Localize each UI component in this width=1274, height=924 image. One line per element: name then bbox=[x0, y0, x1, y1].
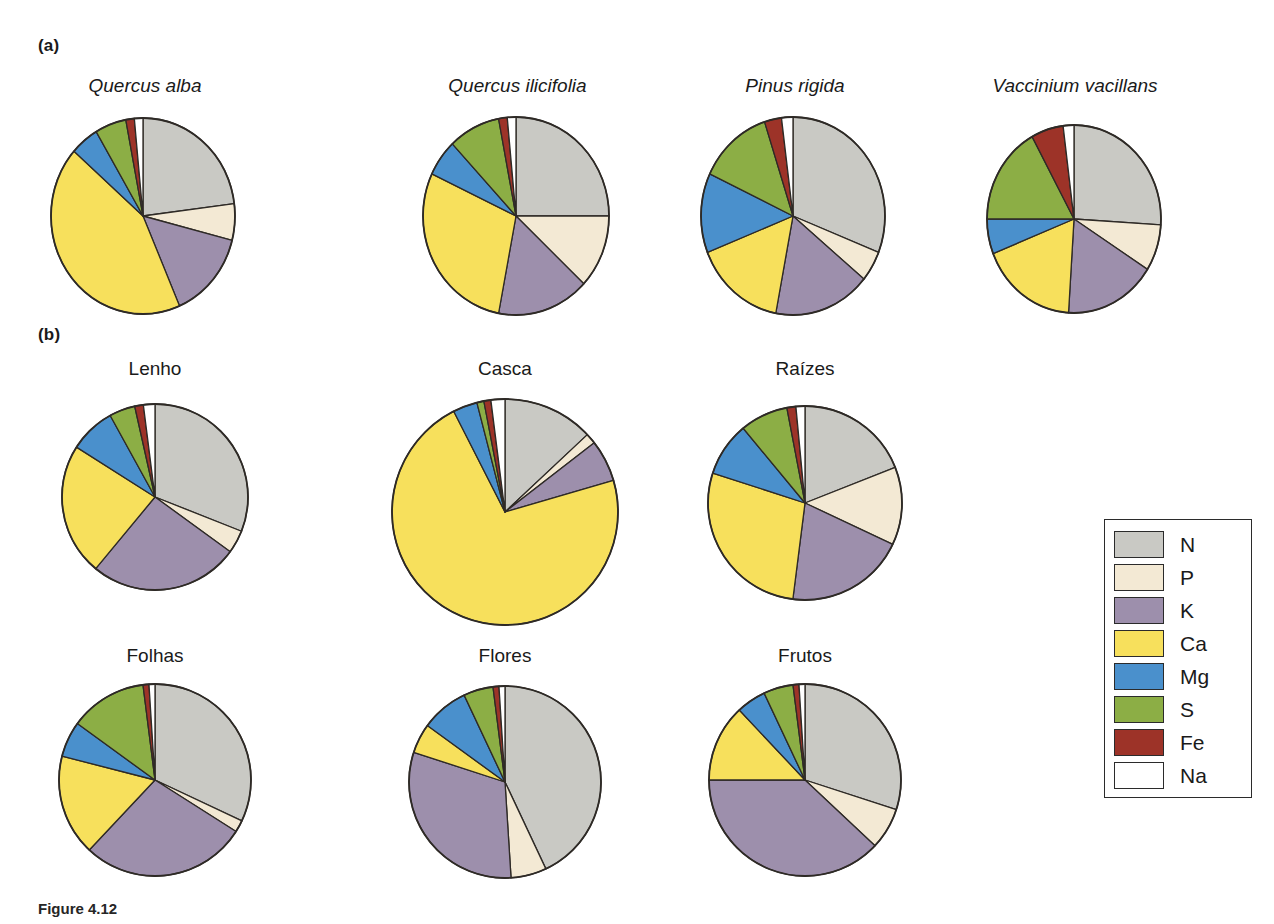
legend-item-n: N bbox=[1114, 528, 1195, 560]
pie-svg-casca bbox=[388, 395, 622, 629]
legend-label-fe: Fe bbox=[1180, 732, 1205, 753]
legend-label-mg: Mg bbox=[1180, 666, 1209, 687]
pie-title-vaccinium-vacillans: Vaccinium vacillans bbox=[975, 75, 1175, 97]
pie-title-folhas: Folhas bbox=[60, 645, 250, 667]
legend-swatch-p bbox=[1114, 564, 1164, 591]
pie-svg-quercus-alba bbox=[47, 114, 239, 318]
legend-swatch-k bbox=[1114, 597, 1164, 624]
legend-swatch-s bbox=[1114, 696, 1164, 723]
panel-label-b: (b) bbox=[38, 325, 60, 345]
legend-label-p: P bbox=[1180, 567, 1194, 588]
pie-title-lenho: Lenho bbox=[60, 358, 250, 380]
pie-svg-frutos bbox=[705, 680, 905, 880]
legend-label-k: K bbox=[1180, 600, 1194, 621]
legend-item-fe: Fe bbox=[1114, 726, 1205, 758]
pie-svg-ra-zes bbox=[704, 402, 906, 604]
legend: NPKCaMgSFeNa bbox=[1104, 519, 1252, 798]
legend-swatch-mg bbox=[1114, 663, 1164, 690]
legend-label-na: Na bbox=[1180, 765, 1207, 786]
pie-slice-vaccinium-vacillans-n bbox=[1074, 125, 1161, 225]
pie-title-flores: Flores bbox=[410, 645, 600, 667]
pie-slice-quercus-ilicifolia-n bbox=[516, 117, 609, 216]
legend-swatch-n bbox=[1114, 531, 1164, 558]
pie-svg-vaccinium-vacillans bbox=[983, 121, 1165, 317]
legend-label-s: S bbox=[1180, 699, 1194, 720]
pie-svg-flores bbox=[405, 682, 605, 882]
legend-item-ca: Ca bbox=[1114, 627, 1207, 659]
legend-label-n: N bbox=[1180, 534, 1195, 555]
pie-svg-lenho bbox=[58, 400, 252, 594]
caption-number: Figure 4.12 bbox=[38, 900, 117, 917]
legend-item-s: S bbox=[1114, 693, 1194, 725]
pie-title-pinus-rigida: Pinus rigida bbox=[700, 75, 890, 97]
figure-root: (a) (b) Quercus albaQuercus ilicifoliaPi… bbox=[0, 0, 1274, 924]
legend-swatch-na bbox=[1114, 762, 1164, 789]
pie-title-casca: Casca bbox=[410, 358, 600, 380]
legend-label-ca: Ca bbox=[1180, 633, 1207, 654]
pie-title-ra-zes: Raízes bbox=[710, 358, 900, 380]
pie-svg-pinus-rigida bbox=[697, 113, 889, 319]
pie-title-quercus-ilicifolia: Quercus ilicifolia bbox=[420, 75, 615, 97]
pie-title-frutos: Frutos bbox=[710, 645, 900, 667]
pie-title-quercus-alba: Quercus alba bbox=[50, 75, 240, 97]
legend-item-k: K bbox=[1114, 594, 1194, 626]
legend-item-mg: Mg bbox=[1114, 660, 1209, 692]
pie-slice-quercus-alba-n bbox=[143, 118, 234, 216]
figure-caption: Figure 4.12 bbox=[38, 900, 1218, 922]
pie-svg-quercus-ilicifolia bbox=[419, 113, 613, 319]
pie-svg-folhas bbox=[55, 680, 255, 880]
legend-swatch-ca bbox=[1114, 630, 1164, 657]
panel-label-a: (a) bbox=[38, 36, 59, 56]
legend-swatch-fe bbox=[1114, 729, 1164, 756]
legend-item-na: Na bbox=[1114, 759, 1207, 791]
legend-item-p: P bbox=[1114, 561, 1194, 593]
